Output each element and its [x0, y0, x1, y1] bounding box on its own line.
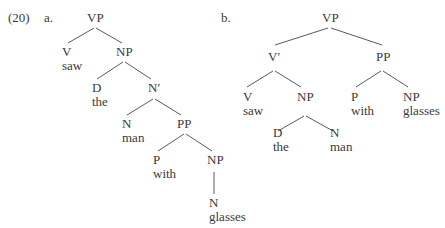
node-a-v: V: [62, 45, 71, 59]
word-b-saw: saw: [243, 104, 263, 118]
edge-b-pp-p: [356, 71, 381, 87]
word-a-glasses: glasses: [209, 210, 246, 224]
node-b-n: N: [330, 126, 339, 140]
edge-b-vp-pp: [331, 28, 382, 45]
word-b-the: the: [273, 140, 289, 154]
word-b-glasses: glasses: [403, 104, 440, 118]
node-a-d: D: [92, 81, 101, 95]
edge-b-vp-vbar: [275, 28, 328, 45]
edge-a-vp-v: [68, 28, 94, 43]
example-number: (20): [8, 11, 30, 25]
word-a-with: with: [153, 167, 176, 181]
node-a-nbar: N′: [148, 81, 160, 95]
tree-edges: [0, 0, 445, 228]
edge-a-nbar-n: [127, 99, 153, 115]
edge-b-vbar-v: [247, 71, 273, 87]
word-a-saw: saw: [62, 59, 82, 73]
node-a-vp: VP: [87, 11, 104, 25]
node-a-np2: NP: [207, 153, 224, 167]
node-b-d: D: [273, 126, 282, 140]
edge-a-nbar-pp: [155, 99, 181, 115]
tree-a-label: a.: [44, 11, 53, 25]
edge-b-vbar-np: [275, 71, 301, 87]
word-b-with: with: [351, 104, 374, 118]
node-b-p: P: [351, 90, 358, 104]
tree-b-label: b.: [221, 11, 231, 25]
node-b-np2: NP: [403, 90, 420, 104]
edge-a-pp-p: [158, 134, 184, 151]
node-a-np: NP: [116, 45, 133, 59]
node-a-p: P: [153, 153, 160, 167]
node-a-n2: N: [209, 196, 218, 210]
edge-b-pp-np: [383, 71, 408, 87]
word-a-the: the: [92, 95, 108, 109]
word-a-man: man: [122, 131, 144, 145]
node-a-n: N: [122, 117, 131, 131]
edge-a-np-d: [97, 62, 123, 79]
node-b-v: V: [243, 90, 252, 104]
edge-a-vp-np: [96, 28, 122, 43]
edge-a-pp-np: [186, 134, 212, 151]
node-b-np: NP: [297, 90, 314, 104]
word-b-man: man: [330, 140, 352, 154]
node-b-vbar: V′: [268, 50, 280, 64]
edge-b-np-n: [306, 116, 333, 131]
edge-a-np-nbar: [125, 62, 151, 79]
node-b-pp: PP: [376, 50, 390, 64]
node-a-pp: PP: [177, 117, 191, 131]
node-b-vp: VP: [322, 11, 339, 25]
